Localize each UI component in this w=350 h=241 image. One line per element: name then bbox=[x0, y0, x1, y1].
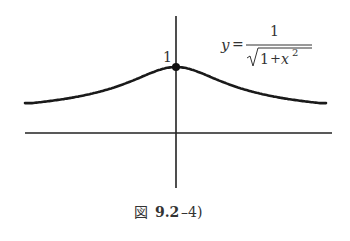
function-label: y = 1 1 + x 2 bbox=[220, 23, 312, 67]
radicand-plus: + bbox=[270, 51, 281, 66]
peak-label: 1 bbox=[163, 49, 172, 65]
peak-point bbox=[172, 63, 180, 71]
caption-prefix: 図 bbox=[134, 204, 148, 220]
figure: 1 y = 1 1 + x 2 図 9.2 –4) bbox=[0, 0, 350, 241]
caption: 図 9.2 –4) bbox=[134, 204, 202, 220]
function-eq: = bbox=[232, 36, 244, 52]
radicand-exp: 2 bbox=[292, 47, 298, 58]
radicand-const: 1 bbox=[260, 51, 269, 67]
function-lhs: y bbox=[220, 36, 230, 54]
function-numerator: 1 bbox=[270, 23, 279, 39]
radicand-var: x bbox=[281, 51, 289, 67]
caption-number: 9.2 bbox=[155, 204, 179, 220]
caption-suffix: –4) bbox=[181, 204, 202, 220]
